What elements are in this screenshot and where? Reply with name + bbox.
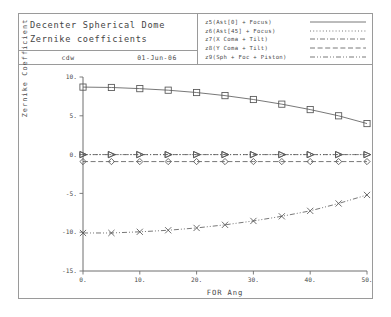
svg-text:0.: 0. bbox=[70, 151, 77, 158]
y-axis-ticks: 10.5.0.-5.-10.-15. bbox=[62, 73, 83, 274]
svg-text:10.: 10. bbox=[66, 73, 77, 80]
title-block: Decenter Spherical Dome Zernike coeffici… bbox=[19, 14, 198, 64]
series-5 bbox=[80, 192, 370, 236]
legend-item-1: z5(Ast[0] + Focus) bbox=[205, 18, 366, 27]
svg-text:0.: 0. bbox=[79, 276, 86, 283]
legend-item-3: z7(X Coma + Tilt) bbox=[205, 35, 366, 44]
title-line-2: Zernike coefficients bbox=[30, 32, 197, 46]
svg-text:10.: 10. bbox=[134, 276, 145, 283]
plot-svg: 10.5.0.-5.-10.-15.0.10.20.30.40.50.FOR A… bbox=[19, 65, 373, 299]
legend-label: z5(Ast[0] + Focus) bbox=[205, 19, 309, 25]
series-4 bbox=[80, 158, 370, 164]
legend-line-swatch bbox=[309, 53, 366, 61]
svg-text:40.: 40. bbox=[305, 276, 316, 283]
legend-item-2: z6(Ast[45] + Focus) bbox=[205, 27, 366, 36]
plot-area: 10.5.0.-5.-10.-15.0.10.20.30.40.50.FOR A… bbox=[19, 65, 372, 299]
svg-text:5.: 5. bbox=[70, 112, 77, 119]
chart-page: Decenter Spherical Dome Zernike coeffici… bbox=[0, 0, 391, 317]
svg-text:-10.: -10. bbox=[62, 228, 77, 235]
svg-text:-15.: -15. bbox=[62, 267, 77, 274]
legend-line-swatch bbox=[309, 35, 366, 43]
title-text: Decenter Spherical Dome Zernike coeffici… bbox=[19, 14, 197, 50]
legend-item-5: z9(Sph + Foc + Piston) bbox=[205, 52, 366, 61]
legend-label: z8(Y Coma + Tilt) bbox=[205, 45, 309, 51]
legend-item-4: z8(Y Coma + Tilt) bbox=[205, 44, 366, 53]
legend-label: z6(Ast[45] + Focus) bbox=[205, 28, 309, 34]
x-axis-ticks: 0.10.20.30.40.50. bbox=[79, 271, 372, 283]
series-3 bbox=[80, 152, 371, 158]
axes bbox=[83, 77, 367, 271]
legend-line-swatch bbox=[309, 44, 366, 52]
credit-row: cdw 01-Jun-06 bbox=[19, 50, 197, 64]
svg-text:50.: 50. bbox=[361, 276, 372, 283]
x-axis-label: FOR Ang bbox=[207, 288, 244, 297]
title-line-1: Decenter Spherical Dome bbox=[30, 18, 197, 32]
header-strip: Decenter Spherical Dome Zernike coeffici… bbox=[19, 14, 372, 65]
svg-text:30.: 30. bbox=[248, 276, 259, 283]
y-axis-label: Zernike Coefficient bbox=[21, 0, 29, 143]
drawing-frame: Decenter Spherical Dome Zernike coeffici… bbox=[18, 13, 373, 299]
legend: z5(Ast[0] + Focus)z6(Ast[45] + Focus)z7(… bbox=[198, 14, 372, 64]
svg-text:-5.: -5. bbox=[66, 190, 77, 197]
legend-label: z7(X Coma + Tilt) bbox=[205, 36, 309, 42]
date-label: 01-Jun-06 bbox=[117, 54, 197, 62]
author-label: cdw bbox=[19, 54, 117, 62]
series-1 bbox=[80, 84, 370, 127]
svg-text:20.: 20. bbox=[191, 276, 202, 283]
legend-line-swatch bbox=[309, 27, 366, 35]
legend-label: z9(Sph + Foc + Piston) bbox=[205, 54, 309, 60]
legend-line-swatch bbox=[309, 18, 366, 26]
